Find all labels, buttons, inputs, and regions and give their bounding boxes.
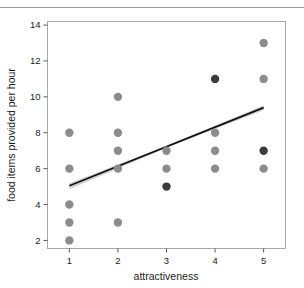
plot-frame: [48, 22, 286, 249]
y-tick-label: 10: [30, 91, 41, 102]
data-point-group: [65, 39, 268, 245]
y-axis-ticks: 2468101214: [30, 19, 48, 245]
data-point: [114, 164, 122, 172]
x-tick-label: 4: [212, 255, 217, 266]
data-point: [65, 200, 73, 208]
data-point: [259, 164, 267, 172]
data-point: [162, 182, 170, 190]
data-point: [65, 218, 73, 226]
data-point: [211, 147, 219, 155]
y-tick-label: 8: [35, 127, 40, 138]
data-point: [259, 39, 267, 47]
figure-container: 2468101214 12345 food items provided per…: [0, 0, 304, 288]
data-point: [114, 93, 122, 101]
data-point: [211, 129, 219, 137]
data-point: [259, 75, 267, 83]
data-point: [114, 147, 122, 155]
y-tick-label: 14: [30, 19, 41, 30]
data-point: [162, 147, 170, 155]
y-tick-label: 2: [35, 235, 40, 246]
data-point: [65, 129, 73, 137]
y-tick-label: 12: [30, 55, 41, 66]
x-tick-label: 5: [261, 255, 266, 266]
data-point: [211, 75, 219, 83]
y-tick-label: 4: [35, 199, 40, 210]
x-tick-label: 3: [164, 255, 169, 266]
x-tick-label: 2: [115, 255, 120, 266]
data-point: [65, 236, 73, 244]
data-point: [259, 147, 267, 155]
y-tick-label: 6: [35, 163, 40, 174]
x-axis-ticks: 12345: [67, 249, 267, 266]
data-point: [162, 164, 170, 172]
x-axis-title: attractiveness: [134, 270, 199, 282]
data-point: [211, 164, 219, 172]
x-tick-label: 1: [67, 255, 72, 266]
data-point: [65, 164, 73, 172]
data-point: [114, 218, 122, 226]
scatter-plot: 2468101214 12345 food items provided per…: [0, 0, 304, 288]
data-point: [114, 129, 122, 137]
y-axis-title: food items provided per hour: [5, 68, 17, 202]
